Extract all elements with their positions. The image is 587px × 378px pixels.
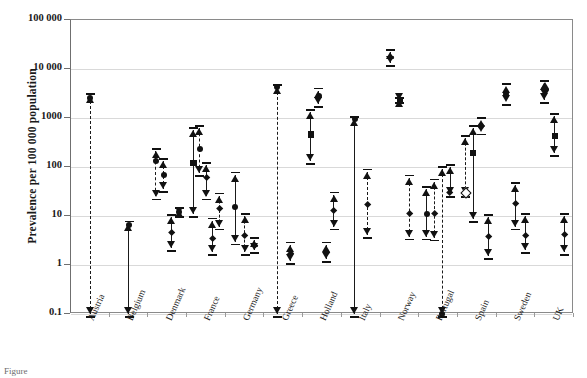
x-axis-tick-mark — [186, 313, 187, 317]
y-axis-tick-label: 0.1 — [0, 306, 62, 317]
x-axis-tick-mark — [225, 313, 226, 317]
x-axis-tick-mark — [341, 313, 342, 317]
y-axis-tick-label: 1000 — [0, 110, 62, 121]
figure-caption: Figure — [4, 366, 28, 376]
x-axis-tick-mark — [496, 313, 497, 317]
upper-cap — [560, 213, 569, 215]
upper-arrow-icon — [560, 216, 568, 223]
x-axis-tick-mark — [534, 313, 535, 317]
x-axis-tick-mark — [457, 313, 458, 317]
x-axis-tick-mark — [418, 313, 419, 317]
diamond-marker — [561, 231, 569, 239]
y-axis-tick-label: 1 — [0, 257, 62, 268]
plot-area — [70, 19, 573, 313]
x-axis-tick-mark — [302, 313, 303, 317]
x-axis-tick-mark — [573, 313, 574, 317]
prevalence-figure: Prevalence per 100 000 population 100 00… — [0, 0, 587, 378]
x-axis-tick-mark — [109, 313, 110, 317]
lower-cap — [560, 254, 569, 256]
x-axis-tick-mark — [380, 313, 381, 317]
y-axis-tick-label: 10 — [0, 208, 62, 219]
lower-arrow-icon — [560, 245, 568, 252]
x-axis-tick-mark — [263, 313, 264, 317]
y-axis-tick-label: 10 000 — [0, 61, 62, 72]
x-axis-tick-mark — [147, 313, 148, 317]
y-axis-tick-label: 100 — [0, 159, 62, 170]
y-axis-tick-label: 100 000 — [0, 12, 62, 23]
data-point-uk-2 — [71, 20, 572, 312]
y-axis-tick-mark — [64, 313, 70, 314]
